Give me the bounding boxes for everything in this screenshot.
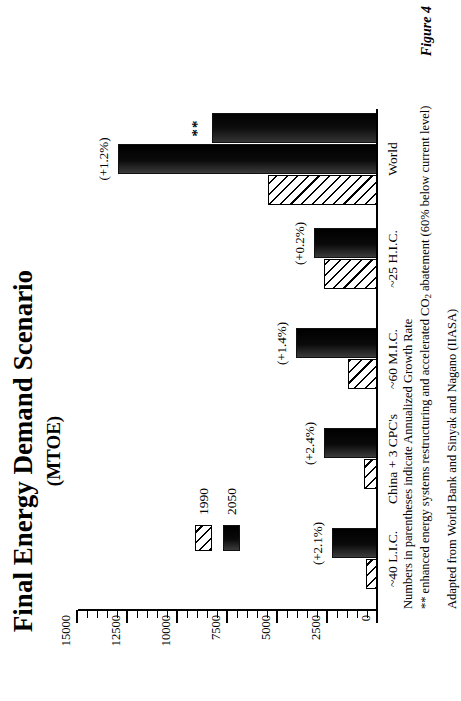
- axis-tick-minor: [87, 610, 89, 618]
- bar-2050: [324, 429, 378, 459]
- footnote-source: Adapted from World Bank and Sinyak and N…: [444, 9, 461, 609]
- bar-2050: [332, 529, 378, 559]
- axis-tick-minor: [97, 610, 99, 618]
- bar-1990: [268, 175, 378, 205]
- bar-growth-rate-label: (+2.4%): [302, 422, 318, 465]
- bar-group: (+2.1%)~40 L.I.C.: [78, 509, 378, 609]
- bar-2050-: [212, 113, 378, 143]
- axis-tick-major: [226, 610, 228, 623]
- bar-growth-rate-label: (+0.2%): [292, 222, 308, 265]
- bar-2050: [314, 229, 378, 259]
- axis-tick-minor: [287, 610, 289, 618]
- bar-growth-rate-label: (+1.4%): [274, 322, 290, 365]
- footnote-star-post: abatement (60% below current level): [418, 106, 432, 294]
- axis-tick-major: [76, 610, 78, 623]
- axis-tick-minor: [197, 610, 199, 618]
- category-axis-line: [376, 109, 378, 609]
- footnotes: Numbers in parentheses indicate Annualiz…: [400, 9, 461, 609]
- axis-tick-label: 0: [359, 615, 372, 621]
- axis-tick-major: [376, 610, 378, 623]
- axis-tick-major: [326, 610, 328, 623]
- axis-tick-minor: [297, 610, 299, 618]
- chart-subtitle: (MTOE): [43, 231, 65, 671]
- axis-tick-minor: [137, 610, 139, 618]
- bar-2050: [118, 144, 378, 174]
- footnote-growth-rate: Numbers in parentheses indicate Annualiz…: [400, 9, 417, 609]
- bar-1990: [324, 260, 378, 290]
- axis-tick-major: [176, 610, 178, 623]
- value-axis-line: [78, 609, 378, 611]
- bar-group: (+2.4%)China + 3 CPC's: [78, 409, 378, 509]
- footnote-double-star: ** enhanced energy systems restructuring…: [417, 9, 435, 609]
- bar-growth-rate-label: (+1.2%): [96, 137, 112, 180]
- footnote-spacer: [434, 9, 444, 609]
- bar-1990: [348, 360, 378, 390]
- footnote-co2-subscript: 2: [422, 294, 432, 299]
- category-axis-label: ~40 L.I.C.: [385, 531, 401, 587]
- plot-area: 0250050007500100001250015000 (+2.1%)~40 …: [78, 109, 378, 609]
- axis-tick-label: 7500: [209, 615, 222, 640]
- axis-tick-minor: [347, 610, 349, 618]
- axis-tick-minor: [187, 610, 189, 618]
- category-axis-label: China + 3 CPC's: [385, 414, 401, 504]
- axis-tick-minor: [247, 610, 249, 618]
- axis-tick-label: 12500: [109, 615, 122, 646]
- axis-tick-label: 5000: [259, 615, 272, 640]
- bar-footnote-marker: **: [189, 120, 206, 137]
- axis-tick-label: 15000: [59, 615, 72, 646]
- category-axis-label: ~25 H.I.C.: [385, 230, 401, 288]
- axis-tick-major: [276, 610, 278, 623]
- axis-tick-label: 2500: [309, 615, 322, 640]
- axis-tick-major: [126, 610, 128, 623]
- axis-tick-minor: [147, 610, 149, 618]
- bar-group: (+1.2%)**World: [78, 109, 378, 209]
- bar-group: (+0.2%)~25 H.I.C.: [78, 209, 378, 309]
- axis-tick-label: 10000: [159, 615, 172, 646]
- bar-group: (+1.4%)~60 M.I.C.: [78, 309, 378, 409]
- category-axis-label: World: [385, 142, 401, 175]
- axis-tick-minor: [237, 610, 239, 618]
- chart-title: Final Energy Demand Scenario: [8, 231, 39, 671]
- footnote-star-pre: ** enhanced energy systems restructuring…: [418, 299, 432, 609]
- bar-2050: [296, 329, 378, 359]
- bar-growth-rate-label: (+2.1%): [310, 522, 326, 565]
- category-axis-label: ~60 M.I.C.: [385, 329, 401, 389]
- axis-tick-minor: [337, 610, 339, 618]
